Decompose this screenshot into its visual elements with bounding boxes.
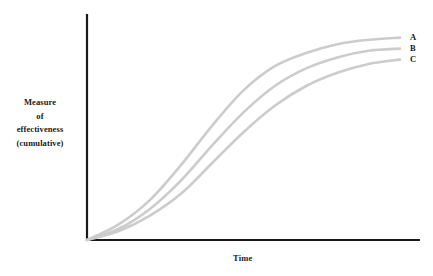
x-axis-title: Time [233,253,253,263]
series-group [87,38,400,240]
y-axis-title-line-2: of [0,110,80,124]
series-label-b: B [410,44,416,53]
series-line-b [87,49,400,240]
series-label-c: C [410,55,416,64]
chart-container: Measure of effectiveness (cumulative) Ti… [0,0,433,276]
series-label-a: A [410,33,416,42]
y-axis-title: Measure of effectiveness (cumulative) [0,96,80,150]
axes-group [86,14,420,241]
y-axis-title-line-4: (cumulative) [0,137,80,151]
y-axis-title-line-1: Measure [0,96,80,110]
y-axis-title-line-3: effectiveness [0,123,80,137]
